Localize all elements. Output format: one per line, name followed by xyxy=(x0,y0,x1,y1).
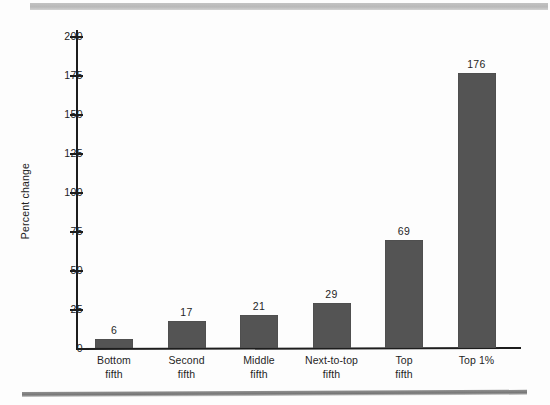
y-tick-mark xyxy=(70,75,83,77)
x-axis-line xyxy=(76,347,521,350)
x-axis-category-label: Secondfifth xyxy=(168,354,204,381)
y-tick-mark xyxy=(70,270,83,272)
x-axis-category-line: fifth xyxy=(168,368,204,382)
y-tick-mark xyxy=(70,153,83,155)
bar[interactable] xyxy=(313,303,351,348)
x-axis-category-line: Top 1% xyxy=(459,354,495,368)
y-axis-title: Percent change xyxy=(19,155,31,247)
x-axis-category-label: Top 1% xyxy=(459,354,495,368)
bar-value-label: 29 xyxy=(325,288,337,300)
y-tick-mark xyxy=(70,36,83,38)
x-axis-category-line: Bottom xyxy=(97,354,131,368)
y-tick-mark xyxy=(70,231,83,233)
x-axis-category-line: fifth xyxy=(305,368,358,382)
bar-value-label: 17 xyxy=(180,306,192,318)
bar-value-label: 69 xyxy=(398,225,410,237)
x-axis-category-line: Middle xyxy=(243,354,275,368)
x-axis-category-label: Bottomfifth xyxy=(97,354,131,381)
x-axis-category-line: Next-to-top xyxy=(305,354,358,368)
bar-value-label: 176 xyxy=(467,58,486,70)
x-axis-category-line: Second xyxy=(168,354,204,368)
bar[interactable] xyxy=(240,315,278,348)
bar[interactable] xyxy=(168,321,206,348)
y-tick-mark xyxy=(70,114,83,116)
bar-value-label: 21 xyxy=(253,300,265,312)
x-axis-category-line: fifth xyxy=(243,368,275,382)
x-axis-category-line: fifth xyxy=(395,368,412,382)
y-tick-mark xyxy=(70,309,83,311)
bar[interactable] xyxy=(385,240,423,348)
x-axis-category-line: fifth xyxy=(97,368,131,382)
x-axis-category-label: Topfifth xyxy=(395,354,412,381)
bar-value-label: 6 xyxy=(111,324,117,336)
y-tick-mark xyxy=(70,192,83,194)
x-axis-category-line: Top xyxy=(395,354,412,368)
y-tick-label: 0 xyxy=(49,342,83,354)
chart-page: Percent change 0255075100125150175200 61… xyxy=(0,0,550,405)
bar[interactable] xyxy=(458,73,496,348)
bar-chart: Percent change 0255075100125150175200 61… xyxy=(0,0,550,405)
bar[interactable] xyxy=(95,339,133,348)
x-axis-category-label: Next-to-topfifth xyxy=(305,354,358,381)
x-axis-category-label: Middlefifth xyxy=(243,354,275,381)
